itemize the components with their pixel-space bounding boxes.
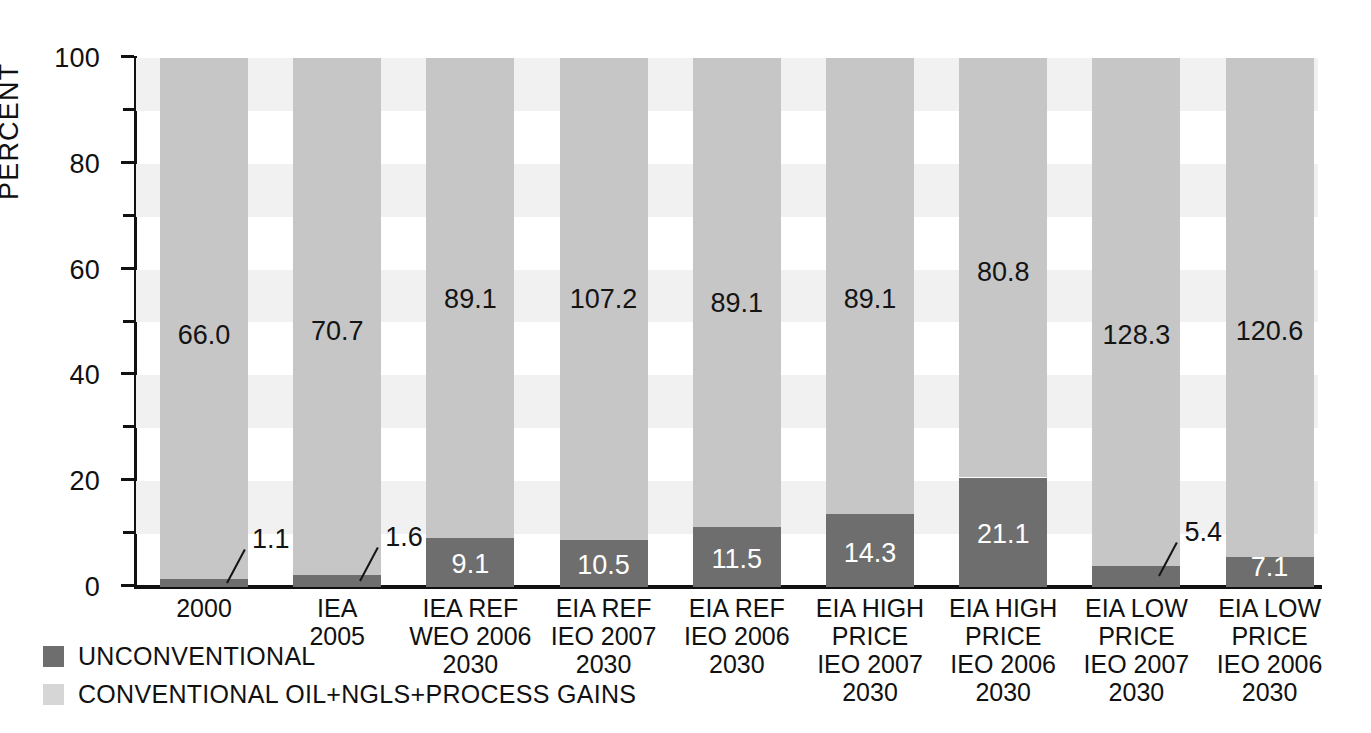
value-label-unconventional: 5.4 [1184, 517, 1222, 548]
legend-label-conventional: CONVENTIONAL OIL+NGLS+PROCESS GAINS [78, 680, 636, 709]
y-tick-major [121, 584, 134, 587]
y-tick-label: 60 [70, 254, 100, 285]
value-label-unconventional: 7.1 [1226, 552, 1314, 583]
value-label-conventional: 128.3 [1092, 320, 1180, 351]
bar-segment-conventional[interactable] [1226, 58, 1314, 557]
value-label-conventional: 107.2 [560, 284, 648, 315]
bar-segment-conventional[interactable] [1092, 58, 1180, 566]
x-axis-label: 2000 [140, 594, 268, 622]
y-tick-label: 100 [54, 43, 100, 74]
legend-swatch-conventional [43, 684, 64, 705]
value-label-unconventional: 9.1 [426, 549, 514, 580]
x-axis-label: EIA REF IEO 2006 2030 [673, 594, 801, 678]
y-axis-ticks [108, 56, 134, 589]
legend-item-unconventional: UNCONVENTIONAL [43, 640, 636, 672]
bar-column[interactable]: 128.3 [1092, 58, 1180, 587]
value-label-conventional: 80.8 [959, 257, 1047, 288]
y-tick-minor [123, 320, 134, 323]
value-label-unconventional: 14.3 [826, 538, 914, 569]
bar-column[interactable]: 89.111.5 [693, 58, 781, 587]
value-label-unconventional: 21.1 [959, 519, 1047, 550]
plot-area: 66.01.170.71.689.19.1107.210.589.111.589… [136, 58, 1318, 587]
legend: UNCONVENTIONAL CONVENTIONAL OIL+NGLS+PRO… [43, 640, 636, 716]
bar-column[interactable]: 120.67.1 [1226, 58, 1314, 587]
value-label-conventional: 70.7 [293, 316, 381, 347]
bar-segment-unconventional[interactable] [293, 575, 381, 587]
bar-segment-unconventional[interactable] [160, 579, 248, 587]
value-label-conventional: 120.6 [1226, 316, 1314, 347]
x-axis-label: EIA LOW PRICE IEO 2006 2030 [1206, 594, 1334, 706]
bar-column[interactable]: 70.7 [293, 58, 381, 587]
y-tick-major [121, 372, 134, 375]
y-axis-tick-labels: 020406080100 [0, 58, 100, 587]
value-label-conventional: 89.1 [426, 284, 514, 315]
value-label-conventional: 89.1 [693, 288, 781, 319]
y-tick-minor [123, 425, 134, 428]
x-axis-label: EIA LOW PRICE IEO 2007 2030 [1072, 594, 1200, 706]
y-tick-label: 20 [70, 466, 100, 497]
value-label-unconventional: 11.5 [693, 544, 781, 575]
y-tick-label: 80 [70, 148, 100, 179]
stacked-bar-chart: PERCENT 020406080100 66.01.170.71.689.19… [0, 0, 1371, 733]
bar-column[interactable]: 66.0 [160, 58, 248, 587]
value-label-conventional: 89.1 [826, 284, 914, 315]
y-tick-minor [123, 108, 134, 111]
y-tick-minor [123, 214, 134, 217]
y-tick-major [121, 161, 134, 164]
legend-swatch-unconventional [43, 646, 64, 667]
bar-column[interactable]: 80.821.1 [959, 58, 1047, 587]
y-tick-label: 40 [70, 360, 100, 391]
value-label-unconventional: 10.5 [560, 550, 648, 581]
value-label-conventional: 66.0 [160, 320, 248, 351]
bar-segment-unconventional[interactable] [1092, 566, 1180, 587]
legend-item-conventional: CONVENTIONAL OIL+NGLS+PROCESS GAINS [43, 678, 636, 710]
bar-column[interactable]: 107.210.5 [560, 58, 648, 587]
y-tick-major [121, 478, 134, 481]
y-tick-major [121, 55, 134, 58]
bar-column[interactable]: 89.114.3 [826, 58, 914, 587]
bar-segment-conventional[interactable] [160, 58, 248, 579]
x-axis-label: EIA HIGH PRICE IEO 2006 2030 [939, 594, 1067, 706]
x-axis-label: EIA HIGH PRICE IEO 2007 2030 [806, 594, 934, 706]
value-label-unconventional: 1.6 [385, 522, 423, 553]
y-tick-minor [123, 531, 134, 534]
y-tick-label: 0 [85, 572, 100, 603]
y-tick-major [121, 267, 134, 270]
legend-label-unconventional: UNCONVENTIONAL [78, 642, 316, 671]
value-label-unconventional: 1.1 [252, 524, 290, 555]
bar-column[interactable]: 89.19.1 [426, 58, 514, 587]
